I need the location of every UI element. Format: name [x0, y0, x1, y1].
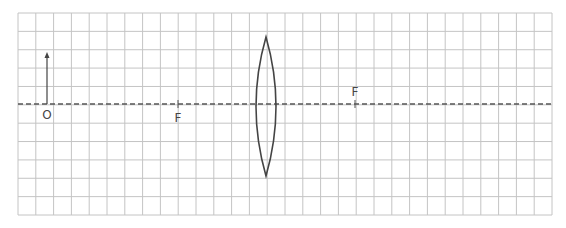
focal-point-label-left: F — [175, 111, 182, 125]
grid — [18, 13, 552, 215]
arrowhead-icon — [45, 52, 50, 58]
focal-point-label-right: F — [352, 85, 359, 99]
object-label: O — [42, 108, 51, 122]
convex-lens — [256, 37, 276, 176]
lens-diagram: O F F — [0, 0, 566, 228]
object-arrow — [45, 52, 50, 104]
